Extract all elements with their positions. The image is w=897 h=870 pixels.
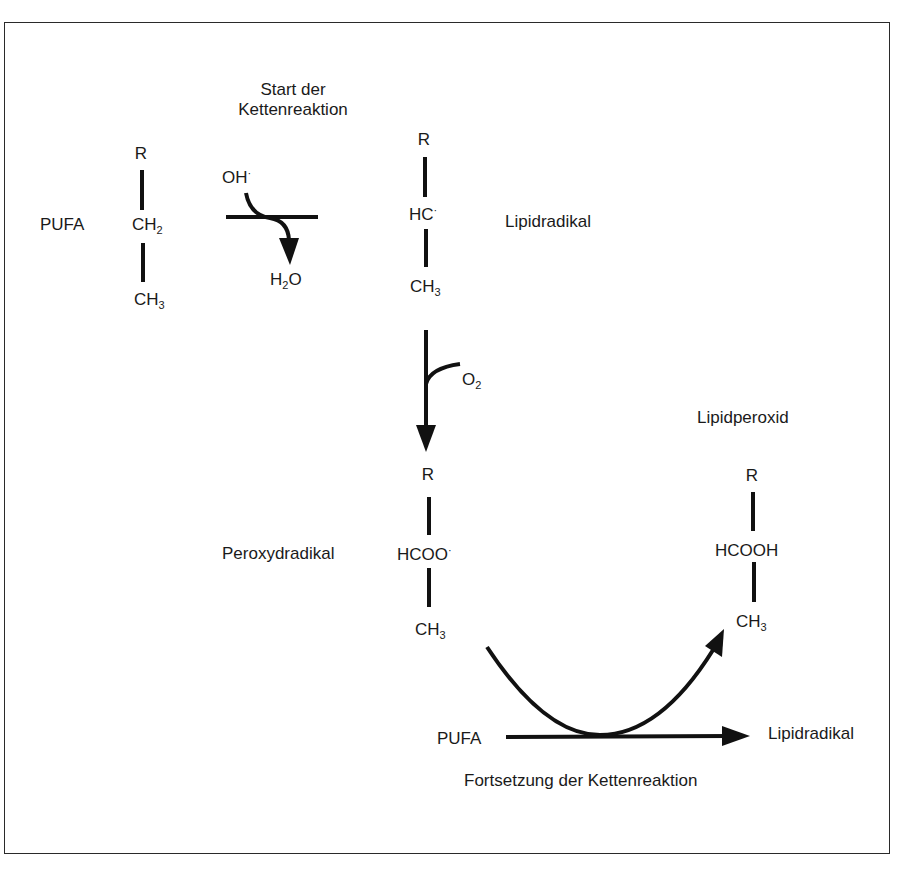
initiation-title-line-1: Start der	[238, 80, 348, 100]
lipid-radical-bond-bottom	[424, 229, 428, 267]
lipid-peroxide-hcooh: HCOOH	[715, 541, 778, 561]
lipid-peroxide-bond-bottom	[752, 562, 756, 602]
lipid-radical-label: Lipidradikal	[505, 212, 591, 232]
pufa-label: PUFA	[40, 215, 84, 235]
pufa-ch3: CH3	[134, 290, 165, 310]
lipid-radical-ch3: CH3	[410, 277, 441, 297]
propagation-line	[506, 736, 730, 737]
pufa-ch2: CH2	[132, 215, 163, 235]
lipid-radical-hc: HC·	[409, 205, 437, 225]
peroxyl-to-peroxide-curve	[487, 647, 713, 735]
o2-arrowhead-icon	[416, 425, 436, 452]
lipid-peroxide-bond-top	[751, 492, 755, 531]
peroxyl-radical-r-group: R	[422, 465, 434, 485]
peroxyl-radical-bond-bottom	[427, 568, 431, 607]
water: H2O	[270, 270, 302, 290]
propagation-title: Fortsetzung der Kettenreaktion	[464, 771, 697, 791]
initiation-title-line-2: Kettenreaktion	[238, 100, 348, 120]
peroxyl-radical-ch3: CH3	[415, 620, 446, 640]
lipid-radical-bond-top	[423, 157, 427, 197]
pufa-bond-bottom	[141, 243, 145, 282]
lipid-peroxide-ch3: CH3	[736, 612, 767, 632]
oxygen: O2	[462, 370, 481, 390]
pufa-r-group: R	[135, 144, 147, 164]
o2-curve	[426, 364, 460, 384]
pufa-bond-top	[140, 170, 144, 210]
lipid-peroxide-label: Lipidperoxid	[697, 408, 789, 428]
peroxyl-radical-hcoo: HCOO·	[397, 545, 452, 565]
lipid-peroxide-r-group: R	[746, 466, 758, 486]
propagation-product: Lipidradikal	[768, 724, 854, 744]
peroxyl-radical-bond-top	[427, 497, 431, 535]
propagation-reactant: PUFA	[437, 729, 481, 749]
peroxide-arrowhead-icon	[705, 629, 724, 657]
hydroxyl-radical: OH·	[222, 168, 251, 188]
propagation-arrowhead-icon	[722, 726, 750, 746]
peroxyl-radical-label: Peroxydradikal	[222, 544, 334, 564]
lipid-radical-r-group: R	[418, 130, 430, 150]
initiation-title: Start der Kettenreaktion	[238, 80, 348, 120]
h2o-arrowhead-icon	[279, 238, 299, 265]
